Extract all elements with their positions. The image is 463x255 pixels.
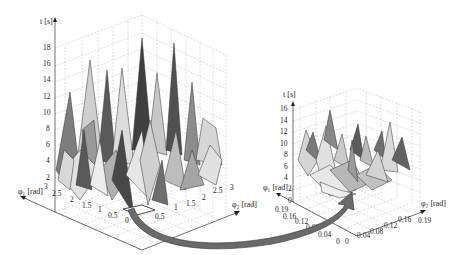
svg-text:2: 2 [70,195,74,204]
svg-text:0.19: 0.19 [418,216,431,225]
left-y-axis-label: φ₂ [rad] [232,200,257,209]
svg-text:4: 4 [46,156,50,165]
svg-text:16: 16 [280,104,288,113]
svg-text:3: 3 [44,182,48,191]
svg-text:0.16: 0.16 [398,215,411,224]
svg-text:2.5: 2.5 [213,186,223,195]
svg-text:18: 18 [43,43,51,52]
svg-text:1: 1 [174,203,178,212]
svg-text:2: 2 [202,193,206,202]
svg-text:16: 16 [43,59,51,68]
svg-text:14: 14 [43,75,51,84]
svg-text:0: 0 [336,237,340,246]
right-y-axis-label: φ₂ [rad] [421,199,446,208]
left-surface-plot: t [s] φ₁ [rad] φ₂ [rad] 18 16 14 12 10 8… [18,15,257,250]
svg-text:0: 0 [288,196,292,205]
svg-text:6: 6 [46,140,50,149]
svg-text:8: 8 [46,124,50,133]
right-y-ticks: 0 0.04 0.08 0.12 0.16 0.19 [345,215,431,246]
svg-text:10: 10 [280,139,288,148]
svg-text:0.5: 0.5 [108,211,118,220]
right-y-axis-arrow-icon [420,210,426,214]
figure: t [s] φ₁ [rad] φ₂ [rad] 18 16 14 12 10 8… [0,0,463,255]
svg-text:0.12: 0.12 [384,221,397,230]
svg-text:0: 0 [125,216,129,225]
svg-text:1: 1 [98,205,102,214]
svg-text:2: 2 [46,173,50,182]
svg-text:10: 10 [43,108,51,117]
svg-text:0.5: 0.5 [155,212,165,221]
svg-text:1.5: 1.5 [186,199,196,208]
left-surface-facets [56,38,222,215]
svg-text:12: 12 [43,92,51,101]
svg-text:0.04: 0.04 [318,230,331,239]
svg-text:2.5: 2.5 [52,189,62,198]
svg-text:12: 12 [280,127,288,136]
x-axis-arrow-icon [20,196,26,200]
svg-text:3: 3 [230,183,234,192]
left-z-axis-label: t [s] [40,17,53,26]
svg-text:8: 8 [284,150,288,159]
svg-text:2: 2 [288,184,292,193]
svg-text:0.08: 0.08 [370,227,383,236]
left-z-ticks: 18 16 14 12 10 8 6 4 2 [43,43,51,182]
svg-text:6: 6 [284,162,288,171]
svg-text:0: 0 [345,237,349,246]
svg-text:1.5: 1.5 [82,201,92,210]
svg-text:0.04: 0.04 [357,231,370,240]
svg-text:14: 14 [280,116,288,125]
right-z-axis-arrow-icon [291,101,295,106]
z-axis-arrow-icon [53,17,57,22]
right-surface-facets [298,110,410,198]
right-z-axis-label: t [s] [283,90,296,99]
right-x-axis-label: φ₁ [rad] [263,183,288,192]
svg-text:4: 4 [284,173,288,182]
right-surface-plot: t [s] φ₁ [rad] φ₂ [rad] 16 14 12 10 8 6 … [263,88,446,246]
left-x-axis-label: φ₁ [rad] [18,187,43,196]
